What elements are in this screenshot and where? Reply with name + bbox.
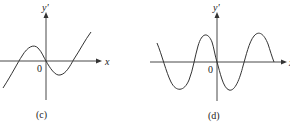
panel-c: y' x 0 (c)	[0, 2, 110, 121]
panel-d: y' x 0 (d)	[150, 2, 290, 122]
figure: y' x 0 (c) y' x 0 (d)	[0, 0, 290, 124]
curve-c	[3, 32, 91, 88]
origin-label: 0	[37, 63, 42, 74]
origin-label: 0	[208, 64, 213, 75]
y-axis-label: y'	[212, 2, 220, 13]
x-axis-arrowhead-icon	[281, 60, 287, 65]
x-axis-label: x	[104, 56, 110, 67]
y-axis-label: y'	[41, 2, 49, 13]
caption-d: (d)	[208, 110, 220, 122]
caption-c: (c)	[36, 109, 47, 121]
x-axis-arrowhead-icon	[96, 59, 102, 64]
x-axis-label: x	[288, 57, 290, 68]
